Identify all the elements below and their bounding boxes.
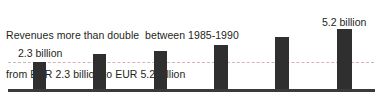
bar-1985 <box>33 62 46 91</box>
plot-area: 2.3 billion 5.2 billion <box>0 0 382 98</box>
bar-1989 <box>275 37 289 91</box>
bar-1990 <box>337 29 352 91</box>
axis-baseline <box>8 89 375 92</box>
revenue-bar-chart: Revenues more than double between 1985-1… <box>0 0 382 98</box>
reference-gridline <box>8 62 374 63</box>
bar-1986 <box>93 54 106 91</box>
bar-1988 <box>214 45 228 91</box>
bar-label-first: 2.3 billion <box>18 47 62 59</box>
bar-label-last: 5.2 billion <box>322 16 366 28</box>
bar-1987 <box>154 51 167 91</box>
